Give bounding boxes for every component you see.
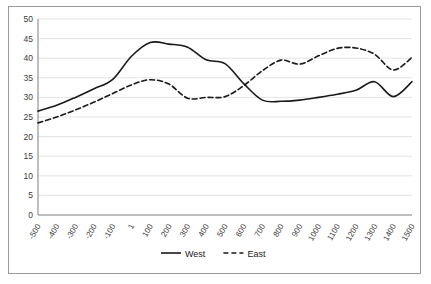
y-axis-tick-label: 35: [24, 73, 34, 83]
y-axis-tick-label: 30: [24, 92, 34, 102]
gridlines: [38, 19, 412, 195]
series-line-east: [38, 47, 412, 123]
x-axis-tick-label: 200: [159, 222, 174, 239]
legend-label-west: West: [185, 249, 206, 259]
x-axis-tick-label: 1100: [326, 222, 343, 242]
series-group: [38, 42, 412, 123]
y-axis-tick-label: 10: [24, 171, 34, 181]
x-axis-tick-label: -500: [27, 222, 43, 241]
y-axis-tick-labels: 05101520253035404550: [24, 14, 34, 220]
x-axis-tick-label: -200: [83, 222, 99, 241]
x-axis-tick-label: 500: [215, 222, 230, 239]
x-axis-tick-label: 1300: [363, 222, 380, 242]
x-axis-tick-label: 300: [178, 222, 193, 239]
x-axis-tick-label: 900: [290, 222, 305, 239]
x-axis-tick-label: 1400: [381, 222, 398, 242]
x-axis-tick-label: 1: [126, 222, 136, 231]
y-axis-tick-label: 20: [24, 132, 34, 142]
legend: WestEast: [161, 249, 266, 259]
x-axis-tick-labels: -500-400-300-200-10011002003004005006007…: [27, 222, 417, 242]
y-axis-tick-label: 40: [24, 53, 34, 63]
y-axis-tick-label: 45: [24, 34, 34, 44]
x-axis-tick-label: 700: [253, 222, 268, 239]
series-line-west: [38, 42, 412, 111]
x-axis-tick-label: -400: [46, 222, 62, 241]
line-chart: 05101520253035404550 -500-400-300-200-10…: [9, 7, 420, 273]
x-axis-tick-label: 100: [140, 222, 155, 239]
x-axis-tick-label: 1500: [400, 222, 417, 242]
x-axis-tick-label: 800: [271, 222, 286, 239]
y-axis-tick-label: 50: [24, 14, 34, 24]
y-axis-tick-label: 25: [24, 112, 34, 122]
x-axis-tick-label: 1200: [344, 222, 361, 242]
x-axis-tick-label: 1000: [307, 222, 324, 242]
x-axis-tick-label: -100: [102, 222, 118, 241]
y-axis-tick-label: 0: [28, 210, 33, 220]
x-axis-tick-label: -300: [64, 222, 80, 241]
y-axis-tick-label: 15: [24, 151, 34, 161]
x-axis-tick-label: 600: [234, 222, 249, 239]
chart-frame: 05101520253035404550 -500-400-300-200-10…: [8, 6, 421, 274]
y-axis-tick-label: 5: [28, 190, 33, 200]
legend-label-east: East: [247, 249, 266, 259]
x-axis-tick-label: 400: [197, 222, 212, 239]
